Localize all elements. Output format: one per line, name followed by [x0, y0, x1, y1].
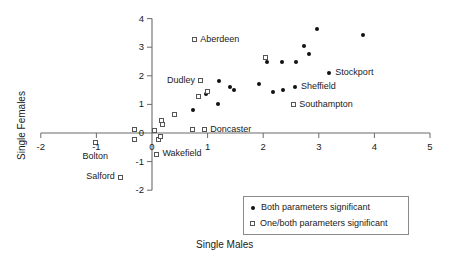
- point-label-salford: Salford: [86, 172, 115, 181]
- point-label-southampton: Southampton: [299, 100, 353, 109]
- data-point-open: [196, 94, 201, 99]
- y-tick-label: 4: [128, 14, 144, 24]
- data-point-filled: [191, 108, 195, 112]
- legend-label-one-both: One/both parameters significant: [260, 219, 388, 228]
- y-tick-label: -1: [128, 157, 144, 167]
- point-label-aberdeen: Aberdeen: [200, 35, 239, 44]
- y-tick-label: 2: [128, 71, 144, 81]
- x-tick-label: -2: [36, 142, 46, 152]
- y-tick-label: 3: [128, 42, 144, 52]
- data-point-filled: [281, 88, 285, 92]
- point-label-dudley: Dudley: [167, 76, 195, 85]
- legend-label-both: Both parameters significant: [261, 203, 370, 212]
- scatter-plot-figure: -2-1012345-2-101234 AberdeenDudleyDoncas…: [0, 0, 453, 261]
- y-axis-title: Single Females: [16, 91, 27, 160]
- data-point-open: [291, 102, 296, 107]
- data-point-filled: [280, 60, 284, 64]
- x-tick-label: 0: [147, 142, 157, 152]
- data-point-open: [172, 112, 177, 117]
- x-axis-title: Single Males: [196, 240, 253, 250]
- legend-filled-circle-icon: [251, 206, 255, 210]
- x-tick-label: 2: [258, 142, 268, 152]
- x-tick-label: 5: [425, 142, 435, 152]
- point-label-bolton: Bolton: [83, 152, 109, 161]
- point-label-doncaster: Doncaster: [210, 125, 251, 134]
- data-point-open: [152, 128, 157, 133]
- data-point-open: [198, 78, 203, 83]
- x-tick-label: 1: [203, 142, 213, 152]
- x-tick-label: 3: [314, 142, 324, 152]
- data-point-filled: [217, 79, 221, 83]
- point-label-stockport: Stockport: [335, 68, 373, 77]
- data-point-filled: [265, 60, 269, 64]
- data-point-open: [160, 122, 165, 127]
- x-tick-label: 4: [369, 142, 379, 152]
- y-tick-label: 0: [128, 128, 144, 138]
- data-point-filled: [293, 85, 297, 89]
- data-point-open: [202, 127, 207, 132]
- legend-open-square-icon: [250, 221, 255, 226]
- data-point-open: [205, 89, 210, 94]
- legend-entry-both: Both parameters significant: [251, 203, 370, 212]
- data-point-open: [154, 152, 159, 157]
- data-point-open: [192, 37, 197, 42]
- legend: Both parameters significant One/both par…: [243, 196, 409, 235]
- legend-entry-one-both: One/both parameters significant: [250, 219, 388, 228]
- data-point-open: [118, 175, 123, 180]
- data-point-filled: [257, 82, 261, 86]
- x-tick-label: -1: [91, 142, 101, 152]
- y-tick-label: 1: [128, 99, 144, 109]
- point-label-wakefield: Wakefield: [162, 149, 201, 158]
- y-tick-label: -2: [128, 185, 144, 195]
- point-label-sheffield: Sheffield: [301, 82, 336, 91]
- data-point-open: [158, 134, 163, 139]
- data-point-open: [190, 127, 195, 132]
- data-point-open: [263, 55, 268, 60]
- data-point-open: [132, 137, 137, 142]
